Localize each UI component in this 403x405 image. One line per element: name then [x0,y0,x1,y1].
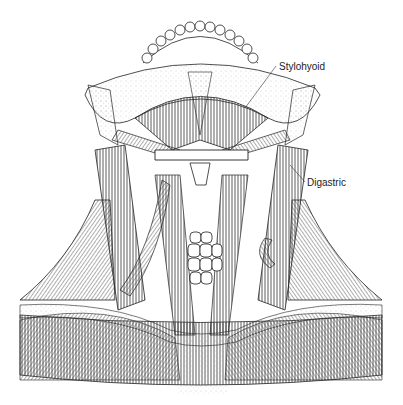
hyoid [155,150,248,160]
anatomical-illustration: Stylohyoid Digastric [0,0,403,405]
digastric-label: Digastric [307,177,346,188]
neck-muscles-drawing [0,0,403,405]
stylohyoid-label: Stylohyoid [279,61,325,72]
teeth [142,21,258,63]
